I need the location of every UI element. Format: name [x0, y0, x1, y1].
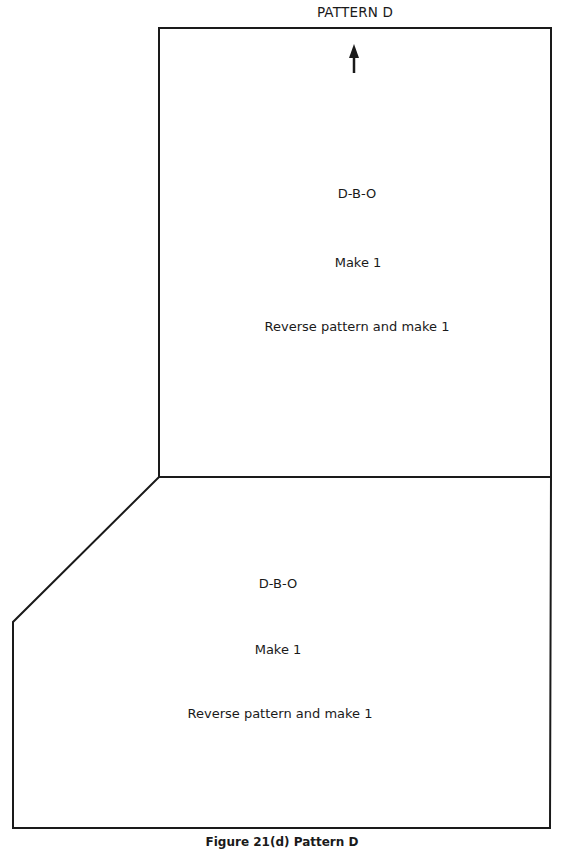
lower-piece-code: D-B-O	[259, 577, 297, 590]
upper-piece-code: D-B-O	[338, 187, 376, 200]
up-arrow-icon	[349, 44, 359, 73]
lower-piece-instruction: Make 1	[255, 643, 302, 656]
lower-piece-reverse-instruction: Reverse pattern and make 1	[188, 707, 373, 720]
upper-piece-instruction: Make 1	[335, 256, 382, 269]
upper-piece-reverse-instruction: Reverse pattern and make 1	[265, 320, 450, 333]
upper-piece-outline	[159, 28, 551, 477]
figure-caption: Figure 21(d) Pattern D	[206, 836, 359, 848]
